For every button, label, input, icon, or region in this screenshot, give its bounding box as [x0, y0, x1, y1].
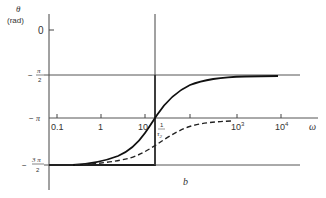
x-tick-label-10: 10 [138, 122, 148, 132]
x-tick-label-1000: 103 [231, 121, 245, 132]
x-axis-label-omega: ω [309, 121, 316, 132]
annotation-tau: τ2 [157, 130, 163, 139]
y-tick-label-minus-sign-half-pi: − [28, 71, 33, 80]
y-tick-label-pi-num: π [37, 67, 41, 75]
x-tick-label-10000: 104 [275, 121, 289, 132]
y-axis-label-rad: (rad) [7, 16, 24, 25]
y-tick-label-minus-pi: − π [29, 114, 41, 123]
y-axis-label-theta: θ [16, 4, 21, 14]
y-tick-label-minus-sign-3half-pi: − [22, 161, 27, 170]
asymptotic-step-line [49, 75, 155, 165]
panel-label: b [183, 176, 188, 187]
bode-phase-chart: θ (rad) 0 − π 2 − π − 3 π 2 0.1 1 10 103… [0, 0, 326, 198]
y-tick-label-two-den: 2 [38, 77, 42, 83]
annotation-tau-one: 1 [160, 122, 164, 128]
solid-phase-curve [73, 76, 278, 165]
y-tick-label-3pi-num: 3 π [31, 156, 41, 164]
y-tick-label-two-den-3: 2 [36, 167, 40, 173]
x-tick-label-1: 1 [98, 122, 103, 132]
x-tick-label-0.1: 0.1 [51, 122, 64, 132]
x-ticks [57, 114, 281, 118]
y-tick-label-0: 0 [38, 25, 44, 36]
